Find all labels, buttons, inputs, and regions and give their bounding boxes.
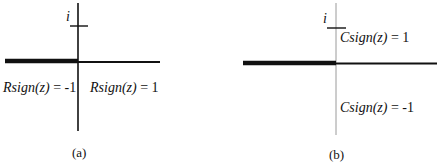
panel-a-rsign: i Rsign(z) = -1 Rsign(z) = 1 (a) — [0, 0, 220, 163]
rsign-arg: (z) — [122, 80, 137, 95]
complex-plane-axes-b — [220, 0, 437, 163]
rsign-positive-label: Rsign(z) = 1 — [90, 80, 159, 96]
rsign-fn-name: Rsign — [3, 80, 35, 95]
rsign-negative-label: Rsign(z) = -1 — [3, 80, 76, 96]
csign-value: = 1 — [387, 30, 409, 45]
imaginary-unit-label-a: i — [66, 9, 70, 25]
csign-value: = -1 — [387, 100, 414, 115]
panel-b-csign: i Csign(z) = 1 Csign(z) = -1 (b) — [220, 0, 437, 163]
caption-b: (b) — [329, 147, 344, 162]
csign-negative-label: Csign(z) = -1 — [340, 100, 414, 116]
rsign-fn-name: Rsign — [90, 80, 122, 95]
csign-positive-label: Csign(z) = 1 — [340, 30, 409, 46]
caption-a: (a) — [72, 145, 86, 160]
rsign-arg: (z) — [35, 80, 50, 95]
rsign-value: = 1 — [137, 80, 159, 95]
csign-arg: (z) — [373, 100, 388, 115]
imaginary-unit-label-b: i — [323, 11, 327, 27]
rsign-value: = -1 — [50, 80, 77, 95]
csign-fn-name: Csign — [340, 100, 373, 115]
csign-arg: (z) — [373, 30, 388, 45]
csign-fn-name: Csign — [340, 30, 373, 45]
